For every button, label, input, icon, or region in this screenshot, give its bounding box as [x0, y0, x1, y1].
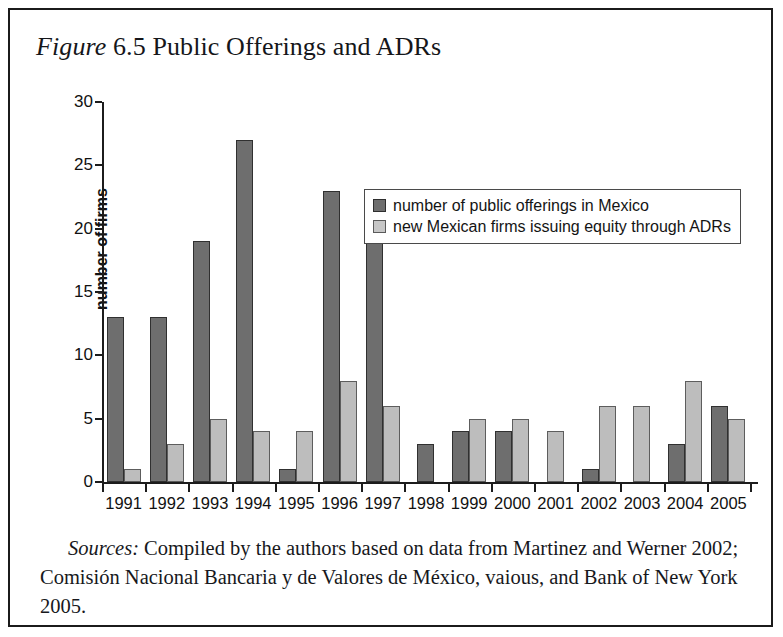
- bar-1991-public-offerings: [107, 317, 124, 482]
- y-tick-mark-20: [95, 228, 102, 230]
- bar-2004-adrs: [685, 381, 702, 482]
- bar-1999-public-offerings: [452, 431, 469, 482]
- bar-group-1992: [145, 102, 188, 482]
- x-tick-mark-2000: [491, 484, 493, 492]
- bar-2000-public-offerings: [495, 431, 512, 482]
- bar-group-2002: [577, 102, 620, 482]
- chart-plot-region: number of firms 051015202530 19911992199…: [40, 88, 760, 508]
- x-tick-label-2000: 2000: [494, 494, 531, 513]
- bar-2002-adrs: [599, 406, 616, 482]
- bar-group-1995: [275, 102, 318, 482]
- bar-group-1997: [361, 102, 404, 482]
- y-tick-mark-0: [95, 481, 102, 483]
- legend-swatch-light-icon: [373, 220, 386, 233]
- x-tick-label-1995: 1995: [278, 494, 315, 513]
- x-tick-mark-1995: [275, 484, 277, 492]
- legend-label-public-offerings: number of public offerings in Mexico: [393, 197, 649, 215]
- figure-label: Figure: [36, 32, 106, 61]
- y-tick-mark-5: [95, 418, 102, 420]
- plot-area: 051015202530 199119921993199419951996199…: [102, 102, 750, 484]
- x-tick-mark-1993: [188, 484, 190, 492]
- bar-1997-adrs: [383, 406, 400, 482]
- x-tick-label-1996: 1996: [321, 494, 358, 513]
- figure-number: 6.5: [113, 32, 146, 61]
- bar-2000-adrs: [512, 419, 529, 482]
- figure-title: Figure 6.5 Public Offerings and ADRs: [36, 32, 441, 62]
- x-tick-mark-2001: [534, 484, 536, 492]
- x-tick-mark-1998: [404, 484, 406, 492]
- bar-2002-public-offerings: [582, 469, 599, 482]
- y-tick-mark-25: [95, 164, 102, 166]
- x-tick-label-1991: 1991: [105, 494, 142, 513]
- x-tick-mark-end: [750, 484, 752, 492]
- bar-1992-public-offerings: [150, 317, 167, 482]
- source-note: Sources: Compiled by the authors based o…: [40, 534, 746, 621]
- bar-1994-adrs: [253, 431, 270, 482]
- bar-group-2000: [491, 102, 534, 482]
- x-tick-label-2001: 2001: [537, 494, 574, 513]
- bar-1993-adrs: [210, 419, 227, 482]
- bar-1997-public-offerings: [366, 203, 383, 482]
- x-tick-mark-1997: [361, 484, 363, 492]
- bar-2005-public-offerings: [711, 406, 728, 482]
- y-tick-mark-30: [95, 101, 102, 103]
- x-tick-mark-2003: [620, 484, 622, 492]
- bar-group-1998: [404, 102, 447, 482]
- bar-group-1996: [318, 102, 361, 482]
- figure-frame: Figure 6.5 Public Offerings and ADRs num…: [8, 8, 773, 627]
- y-tick-label-0: 0: [84, 472, 93, 492]
- y-tick-mark-10: [95, 354, 102, 356]
- x-tick-mark-2005: [707, 484, 709, 492]
- bar-1999-adrs: [469, 419, 486, 482]
- bar-group-1999: [448, 102, 491, 482]
- source-note-text: Compiled by the authors based on data fr…: [40, 537, 738, 617]
- bar-group-1994: [232, 102, 275, 482]
- bar-group-2001: [534, 102, 577, 482]
- bar-group-2003: [620, 102, 663, 482]
- bar-group-2004: [664, 102, 707, 482]
- bar-1994-public-offerings: [236, 140, 253, 482]
- bar-1995-public-offerings: [279, 469, 296, 482]
- bars-layer: [102, 102, 750, 482]
- x-tick-label-1992: 1992: [148, 494, 185, 513]
- x-axis-ticks: 1991199219931994199519961997199819992000…: [102, 484, 750, 518]
- bar-1993-public-offerings: [193, 241, 210, 482]
- x-tick-mark-1991: [102, 484, 104, 492]
- y-tick-label-15: 15: [74, 282, 93, 302]
- legend-item-public-offerings: number of public offerings in Mexico: [373, 195, 731, 216]
- x-tick-label-1997: 1997: [364, 494, 401, 513]
- x-tick-mark-1992: [145, 484, 147, 492]
- y-tick-label-10: 10: [74, 345, 93, 365]
- legend-label-adrs: new Mexican firms issuing equity through…: [393, 218, 731, 236]
- x-tick-label-1994: 1994: [235, 494, 272, 513]
- bar-1996-adrs: [340, 381, 357, 482]
- bar-group-1993: [188, 102, 231, 482]
- legend-item-adrs: new Mexican firms issuing equity through…: [373, 216, 731, 237]
- x-tick-mark-1999: [448, 484, 450, 492]
- bar-2003-adrs: [633, 406, 650, 482]
- x-tick-label-2002: 2002: [580, 494, 617, 513]
- x-tick-mark-1996: [318, 484, 320, 492]
- x-tick-mark-2004: [664, 484, 666, 492]
- y-tick-label-5: 5: [84, 409, 93, 429]
- x-tick-label-2003: 2003: [624, 494, 661, 513]
- y-tick-mark-15: [95, 291, 102, 293]
- source-note-label: Sources:: [68, 537, 139, 559]
- x-tick-label-1993: 1993: [192, 494, 229, 513]
- chart-legend: number of public offerings in Mexico new…: [364, 189, 741, 244]
- y-tick-label-25: 25: [74, 155, 93, 175]
- x-tick-label-2004: 2004: [667, 494, 704, 513]
- figure-title-text: Public Offerings and ADRs: [152, 32, 441, 61]
- bar-1991-adrs: [124, 469, 141, 482]
- bar-group-2005: [707, 102, 750, 482]
- x-tick-mark-1994: [232, 484, 234, 492]
- bar-1995-adrs: [296, 431, 313, 482]
- y-tick-label-20: 20: [74, 219, 93, 239]
- x-tick-label-2005: 2005: [710, 494, 747, 513]
- bar-1998-public-offerings: [417, 444, 434, 482]
- legend-swatch-dark-icon: [373, 199, 386, 212]
- bar-1996-public-offerings: [323, 191, 340, 482]
- bar-2005-adrs: [728, 419, 745, 482]
- bar-2001-adrs: [547, 431, 564, 482]
- x-tick-mark-2002: [577, 484, 579, 492]
